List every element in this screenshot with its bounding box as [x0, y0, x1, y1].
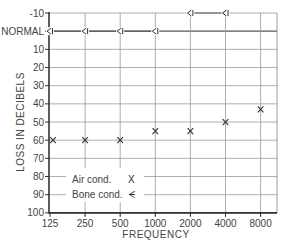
- legend: Air cond. X Bone cond. ᗕ: [66, 168, 144, 202]
- x-tick-label: 500: [112, 218, 129, 229]
- y-tick-label: 20: [33, 62, 45, 73]
- audiogram-chart: -10NORMAL102030405060708090100 125250500…: [0, 0, 284, 244]
- x-tick-label: 2000: [179, 218, 202, 229]
- bone-marker-icon: [222, 9, 230, 17]
- bone-marker-icon: [116, 27, 124, 35]
- legend-bone-symbol: ᗕ: [128, 189, 135, 200]
- y-tick-label: 80: [33, 171, 45, 182]
- y-tick-label: 70: [33, 153, 45, 164]
- x-tick-label: 8000: [249, 218, 272, 229]
- y-tick-label: 100: [27, 207, 44, 218]
- y-tick-label: 40: [33, 98, 45, 109]
- bone-marker-icon: [151, 27, 159, 35]
- y-tick-label: 90: [33, 189, 45, 200]
- y-tick-label: 30: [33, 80, 45, 91]
- y-tick-label: 10: [33, 44, 45, 55]
- x-axis-label: FREQUENCY: [122, 229, 189, 240]
- bone-marker-icon: [46, 27, 54, 35]
- legend-air-symbol: X: [128, 174, 135, 185]
- y-tick-label: -10: [30, 8, 45, 19]
- y-tick-label: 50: [33, 117, 45, 128]
- x-tick-label: 125: [42, 218, 59, 229]
- y-tick-label: NORMAL: [1, 26, 44, 37]
- air-conduction-series: [50, 106, 263, 143]
- bone-marker-icon: [186, 9, 194, 17]
- x-axis-ticks: 1252505001000200040008000: [42, 213, 273, 229]
- y-axis-label: LOSS IN DECIBELS: [15, 72, 26, 172]
- legend-air-label: Air cond.: [72, 174, 111, 185]
- legend-bone-label: Bone cond.: [72, 189, 123, 200]
- x-tick-label: 1000: [144, 218, 167, 229]
- bone-marker-icon: [81, 27, 89, 35]
- y-tick-label: 60: [33, 135, 45, 146]
- x-tick-label: 250: [77, 218, 94, 229]
- x-tick-label: 4000: [214, 218, 237, 229]
